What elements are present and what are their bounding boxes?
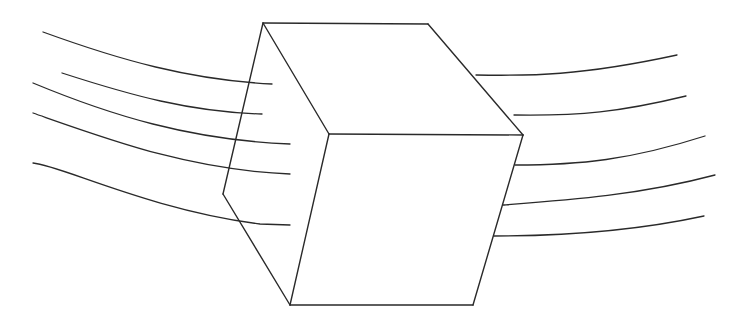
incoming-flow-line-4	[33, 113, 290, 174]
cube-flow-diagram	[0, 0, 745, 319]
incoming-flow-line-5	[33, 163, 290, 225]
cube-front-top-edge	[329, 134, 523, 135]
outgoing-flow-line-1	[476, 55, 677, 75]
cube-back-left-edge	[223, 23, 263, 194]
cube-top-left-diagonal	[263, 23, 329, 134]
cube-top-right-edge	[428, 24, 523, 135]
incoming-flow-lines	[33, 32, 290, 225]
cube-left-bottom-diagonal	[223, 194, 290, 305]
outgoing-flow-line-3	[515, 136, 705, 165]
cube-top-back-edge	[263, 23, 428, 24]
outgoing-flow-lines	[476, 55, 715, 236]
outgoing-flow-line-5	[494, 216, 704, 236]
cube-front-right-edge	[473, 135, 523, 305]
incoming-flow-line-2	[62, 73, 262, 114]
cube-front-left-edge	[290, 134, 329, 305]
diagram-canvas	[0, 0, 745, 319]
outgoing-flow-line-4	[503, 175, 715, 205]
cube	[223, 23, 523, 305]
incoming-flow-line-1	[43, 32, 272, 84]
outgoing-flow-line-2	[514, 96, 686, 115]
